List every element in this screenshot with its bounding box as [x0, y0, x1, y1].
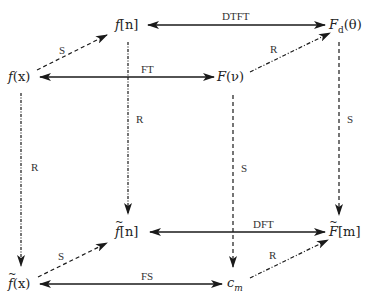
node-c-m: cm [227, 276, 243, 293]
label-ft: FT [141, 64, 154, 75]
node-fd-theta: Fd(θ) [329, 18, 362, 35]
label-s-top-left: S [59, 45, 65, 56]
label-r-bottom-right: R [269, 250, 276, 261]
node-f-x: f(x) [8, 70, 30, 83]
node-ftilde-n: f[n] [115, 225, 138, 238]
edge-r-cm-ftm [250, 240, 328, 278]
node-F-nu: F(ν) [217, 70, 244, 83]
node-ftilde-x: f(x) [8, 277, 30, 290]
label-r-inner-vertical: R [136, 114, 143, 125]
label-s-right-vertical: S [347, 114, 353, 125]
label-dtft: DTFT [222, 11, 250, 22]
label-fs: FS [141, 271, 153, 282]
label-r-top-right: R [270, 44, 277, 55]
edge-s-ftx-ftn [38, 243, 107, 277]
label-r-left-vertical: R [31, 162, 38, 173]
node-Ftilde-m: F[m] [329, 225, 361, 238]
edge-s-fx-fn [37, 35, 107, 70]
edges-layer [0, 0, 371, 298]
fourier-cube-diagram: f[n] Fd(θ) f(x) F(ν) f[n] F[m] f(x) cm D… [0, 0, 371, 298]
label-dft: DFT [253, 219, 274, 230]
edge-r-fnu-fd [250, 33, 330, 72]
label-s-bottom-left: S [58, 251, 64, 262]
node-f-n: f[n] [115, 18, 138, 31]
label-s-inner-vertical: S [241, 163, 247, 174]
